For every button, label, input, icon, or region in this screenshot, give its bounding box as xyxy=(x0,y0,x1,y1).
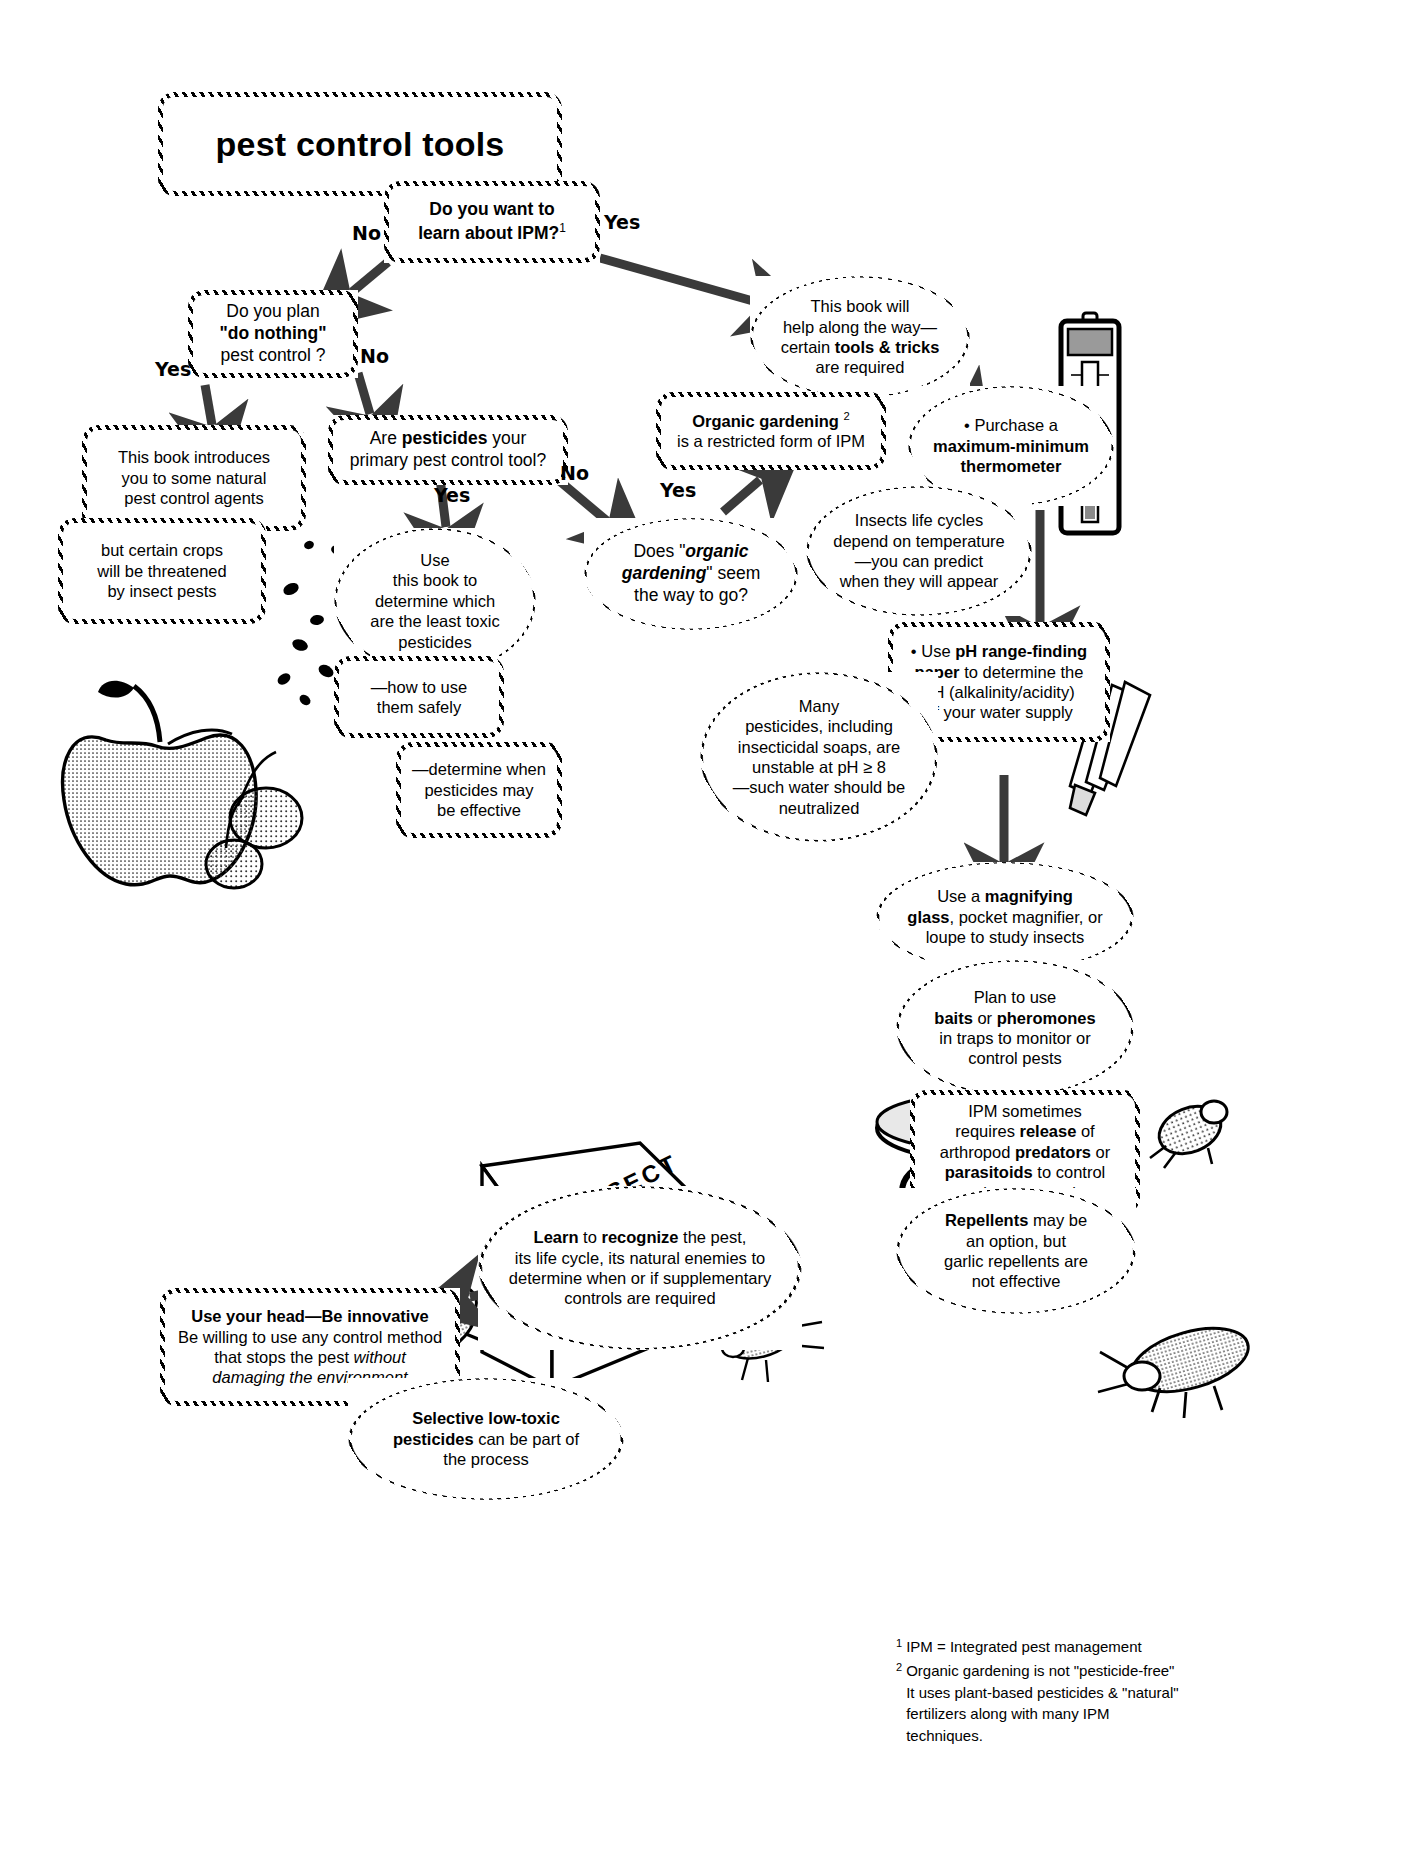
question-ipm-label: Do you want tolearn about IPM?1 xyxy=(412,197,572,246)
note-selective-low-toxic: Selective low-toxicpesticides can be par… xyxy=(348,1378,624,1500)
footnote-1-text: IPM = Integrated pest management xyxy=(906,1636,1142,1658)
arrow-ipm-to-donothing xyxy=(352,262,388,292)
question-do-nothing-label: Do you plan"do nothing"pest control ? xyxy=(214,299,333,368)
edge-label-yes-do-nothing: Yes xyxy=(155,358,191,380)
note-unstable-ph: Manypesticides, includinginsecticidal so… xyxy=(700,672,938,842)
note-natural-agents-label: This book introducesyou to some naturalp… xyxy=(112,445,276,510)
footnote-1: 1 IPM = Integrated pest management xyxy=(896,1636,1316,1658)
note-determine-when-effective: —determine whenpesticides maybe effectiv… xyxy=(396,742,562,838)
note-baits-label: Plan to usebaits or pheromonesin traps t… xyxy=(928,985,1101,1071)
footnote-2-text: Organic gardening is not "pesticide-free… xyxy=(906,1660,1178,1747)
note-crops-threatened: but certain cropswill be threatenedby in… xyxy=(58,518,266,624)
edge-label-no-pesticides: No xyxy=(560,462,589,484)
pest-control-tools-flowchart: INSECT pest control tools Do you want to… xyxy=(0,0,1421,1874)
page-title: pest control tools xyxy=(210,121,511,167)
edge-label-yes-ipm: Yes xyxy=(604,211,640,233)
note-magnifying-glass: Use a magnifyingglass, pocket magnifier,… xyxy=(876,862,1134,972)
question-do-nothing[interactable]: Do you plan"do nothing"pest control ? xyxy=(188,290,358,378)
arrow-organic-yes-to-organicnode xyxy=(723,480,760,512)
edge-label-no-ipm: No xyxy=(352,222,381,244)
note-life-cycles-label: Insects life cyclesdepend on temperature… xyxy=(827,508,1011,594)
footnote-2: 2 Organic gardening is not "pesticide-fr… xyxy=(896,1660,1316,1747)
note-thermometer-label: • Purchase amaximum-minimumthermometer xyxy=(927,413,1095,478)
arrow-donothing-to-pesticides xyxy=(358,373,370,414)
arrow-layer xyxy=(0,0,1421,1874)
note-repellents: Repellents may bean option, butgarlic re… xyxy=(896,1188,1136,1314)
edge-label-yes-organic: Yes xyxy=(660,479,696,501)
note-magnifier-label: Use a magnifyingglass, pocket magnifier,… xyxy=(901,884,1108,949)
question-pesticides-label: Are pesticides yourprimary pest control … xyxy=(344,426,552,473)
note-life-cycles: Insects life cyclesdepend on temperature… xyxy=(806,486,1032,616)
note-least-toxic-label: Usethis book todetermine whichare the le… xyxy=(364,548,505,654)
note-learn-recognize: Learn to recognize the pest,its life cyc… xyxy=(478,1186,802,1350)
note-book-helps: This book willhelp along the way—certain… xyxy=(750,276,970,398)
note-learn-label: Learn to recognize the pest,its life cyc… xyxy=(503,1225,777,1311)
footnote-2-marker: 2 xyxy=(896,1660,902,1747)
note-determine-when-label: —determine whenpesticides maybe effectiv… xyxy=(406,757,552,822)
note-how-to-use-label: —how to usethem safely xyxy=(365,675,473,720)
note-repellents-label: Repellents may bean option, butgarlic re… xyxy=(938,1208,1094,1294)
note-organic-restricted-label: Organic gardening 2is a restricted form … xyxy=(671,408,871,453)
arrow-donothing-to-natural xyxy=(205,385,212,425)
question-pesticides-primary[interactable]: Are pesticides yourprimary pest control … xyxy=(328,415,568,485)
footnotes: 1 IPM = Integrated pest management 2 Org… xyxy=(896,1636,1316,1749)
question-organic-gardening[interactable]: Does "organicgardening" seemthe way to g… xyxy=(584,518,798,630)
note-least-toxic-pesticides: Usethis book todetermine whichare the le… xyxy=(334,528,536,674)
edge-label-yes-pesticides: Yes xyxy=(434,484,470,506)
note-natural-agents: This book introducesyou to some naturalp… xyxy=(82,425,306,531)
note-unstable-ph-label: Manypesticides, includinginsecticidal so… xyxy=(727,694,911,821)
note-book-helps-label: This book willhelp along the way—certain… xyxy=(775,294,946,380)
note-baits-pheromones: Plan to usebaits or pheromonesin traps t… xyxy=(896,960,1134,1096)
arrow-ipm-to-book-helps xyxy=(600,258,760,303)
note-organic-restricted: Organic gardening 2is a restricted form … xyxy=(656,392,886,470)
question-learn-about-ipm[interactable]: Do you want tolearn about IPM?1 xyxy=(384,181,600,263)
note-how-to-use-safely: —how to usethem safely xyxy=(334,656,504,738)
edge-label-no-do-nothing: No xyxy=(360,345,389,367)
note-crops-threatened-label: but certain cropswill be threatenedby in… xyxy=(91,538,232,603)
question-organic-label: Does "organicgardening" seemthe way to g… xyxy=(616,539,766,608)
footnote-1-marker: 1 xyxy=(896,1636,902,1658)
note-selective-label: Selective low-toxicpesticides can be par… xyxy=(387,1406,585,1471)
